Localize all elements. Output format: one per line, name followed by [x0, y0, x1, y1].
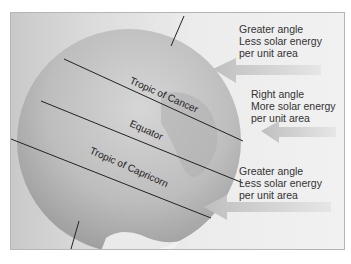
- annotation-top-line1: Greater angle: [239, 23, 322, 35]
- annotation-top: Greater angle Less solar energy per unit…: [239, 23, 322, 59]
- annotation-middle-line1: Right angle: [251, 88, 336, 100]
- sunlight-arrow-middle: [261, 121, 336, 143]
- annotation-bottom-line3: per unit area: [239, 189, 322, 201]
- annotation-middle: Right angle More solar energy per unit a…: [251, 88, 336, 124]
- annotation-bottom-line1: Greater angle: [239, 165, 322, 177]
- sunlight-arrow-top: [213, 58, 321, 83]
- annotation-middle-line3: per unit area: [251, 112, 336, 124]
- annotation-top-line2: Less solar energy: [239, 35, 322, 47]
- annotation-bottom: Greater angle Less solar energy per unit…: [239, 165, 322, 201]
- diagram-frame: Tropic of Cancer Equator Tropic of Capri…: [10, 12, 345, 250]
- annotation-middle-line2: More solar energy: [251, 100, 336, 112]
- annotation-top-line3: per unit area: [239, 47, 322, 59]
- annotation-bottom-line2: Less solar energy: [239, 177, 322, 189]
